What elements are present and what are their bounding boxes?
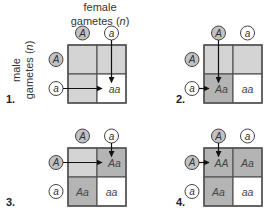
female-gamete-allele: A <box>214 28 222 39</box>
punnett-square-diagram: female gametes (n) male gametes (n) aaAa… <box>0 0 274 217</box>
female-label-line1: female <box>83 1 116 13</box>
male-gamete-allele: a <box>53 186 59 197</box>
female-label-line2: gametes (n) <box>71 15 130 27</box>
offspring-genotype: aa <box>242 83 254 95</box>
panel-2: AaaaAaAa2. <box>176 26 262 105</box>
offspring-genotype: Aa <box>214 83 228 95</box>
offspring-genotype: Aa <box>75 186 89 198</box>
male-label-line2: gametes (n) <box>23 41 35 100</box>
male-label-line1: male <box>10 58 22 82</box>
female-gametes-label: female gametes (n) <box>71 1 130 27</box>
female-gamete-allele: a <box>245 28 251 39</box>
panel-number: 3. <box>6 196 15 208</box>
male-gamete-allele: A <box>188 157 196 168</box>
offspring-genotype: Aa <box>240 157 254 169</box>
female-gamete-allele: A <box>78 28 86 39</box>
female-gamete-allele: a <box>245 131 251 142</box>
punnett-cell <box>68 45 97 74</box>
female-gamete-allele: A <box>78 131 86 142</box>
punnett-cell <box>233 45 262 74</box>
male-gametes-label: male gametes (n) <box>10 41 35 100</box>
panel-4: AAAaAaaaAaAa4. <box>176 129 262 208</box>
offspring-genotype: aa <box>106 186 118 198</box>
male-gamete-allele: a <box>189 83 195 94</box>
panel-number: 2. <box>176 93 185 105</box>
female-gamete-allele: a <box>109 28 115 39</box>
male-gamete-allele: a <box>53 83 59 94</box>
panel-number: 4. <box>176 196 185 208</box>
panel-3: AaAaaaAaAa3. <box>6 129 126 208</box>
female-gamete-allele: a <box>109 131 115 142</box>
male-gamete-allele: a <box>189 186 195 197</box>
offspring-genotype: Aa <box>211 186 225 198</box>
male-gamete-allele: A <box>188 54 196 65</box>
offspring-genotype: Aa <box>107 157 121 169</box>
offspring-genotype: aa <box>242 186 254 198</box>
male-gamete-allele: A <box>52 157 60 168</box>
female-gamete-allele: A <box>214 131 222 142</box>
panel-number: 1. <box>6 93 15 105</box>
male-gamete-allele: A <box>52 54 60 65</box>
offspring-genotype: aa <box>109 83 121 95</box>
offspring-genotype: AA <box>213 157 228 169</box>
